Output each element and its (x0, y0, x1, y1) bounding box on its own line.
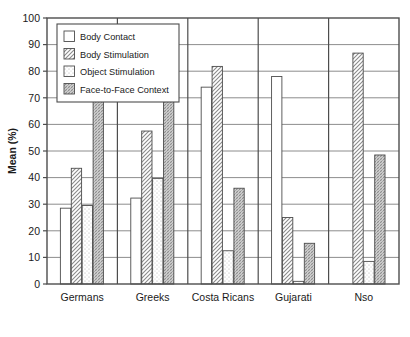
y-tick-label: 0 (34, 278, 40, 290)
y-tick-label: 50 (28, 145, 40, 157)
legend-label: Body Stimulation (80, 50, 149, 60)
x-category-label: Greeks (136, 291, 170, 303)
y-tick-label: 10 (28, 251, 40, 263)
bar (60, 208, 70, 284)
legend-swatch (64, 31, 75, 42)
bar (353, 53, 363, 284)
bar (304, 243, 314, 284)
legend-label: Body Contact (80, 32, 136, 42)
y-tick-label: 70 (28, 92, 40, 104)
y-tick-label: 100 (22, 12, 40, 24)
legend: Body ContactBody StimulationObject Stimu… (57, 24, 179, 102)
x-axis-labels: GermansGreeksCosta RicansGujaratiNso (61, 291, 374, 303)
bar (93, 99, 103, 284)
bar (201, 87, 211, 284)
legend-swatch (64, 49, 75, 60)
bar (164, 97, 174, 284)
y-axis-title-text: Mean (%) (6, 128, 18, 174)
bar (375, 155, 385, 284)
bar (212, 66, 222, 284)
bar-chart: 0102030405060708090100 GermansGreeksCost… (0, 0, 410, 337)
y-tick-label: 80 (28, 65, 40, 77)
bar (82, 206, 92, 284)
y-axis-ticks: 0102030405060708090100 (22, 12, 47, 290)
bar (131, 198, 141, 284)
bar (234, 188, 244, 284)
x-category-label: Gujarati (275, 291, 312, 303)
legend-label: Face-to-Face Context (80, 85, 169, 95)
bar (153, 178, 163, 284)
y-tick-label: 90 (28, 38, 40, 50)
chart-container: 0102030405060708090100 GermansGreeksCost… (0, 0, 410, 337)
y-tick-label: 60 (28, 118, 40, 130)
bar (142, 131, 152, 284)
y-tick-label: 20 (28, 225, 40, 237)
bar (364, 261, 374, 284)
x-category-label: Nso (354, 291, 373, 303)
x-category-label: Germans (61, 291, 104, 303)
y-axis-title: Mean (%) (6, 128, 18, 174)
bar (223, 251, 233, 284)
legend-swatch (64, 84, 75, 95)
bar (282, 218, 292, 285)
x-category-label: Costa Ricans (192, 291, 254, 303)
y-tick-label: 30 (28, 198, 40, 210)
legend-label: Object Stimulation (80, 67, 155, 77)
y-tick-label: 40 (28, 171, 40, 183)
bar (272, 77, 282, 284)
legend-swatch (64, 66, 75, 77)
bar (71, 168, 81, 284)
